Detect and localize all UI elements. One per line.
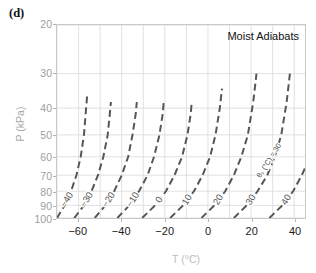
- y-tick-label: 80: [40, 186, 52, 198]
- y-tick-label: 100: [34, 213, 52, 225]
- x-tick-mark: [208, 219, 209, 222]
- y-tick-label: 70: [40, 170, 52, 182]
- y-tick-mark: [53, 108, 56, 109]
- y-tick-mark: [53, 206, 56, 207]
- x-tick-label: 40: [289, 225, 301, 237]
- y-tick-mark: [53, 157, 56, 158]
- figure-panel-d: (d) −40−40−30−30−20−20−10−10001010202030…: [0, 0, 316, 273]
- y-tick-label: 60: [40, 151, 52, 163]
- y-tick-mark: [53, 192, 56, 193]
- y-tick-mark: [53, 219, 56, 220]
- x-tick-mark: [78, 219, 79, 222]
- y-tick-label: 20: [40, 18, 52, 30]
- y-tick-label: 30: [40, 67, 52, 79]
- x-tick-mark: [165, 219, 166, 222]
- y-tick-mark: [53, 135, 56, 136]
- x-tick-label: 20: [246, 225, 258, 237]
- y-tick-mark: [53, 24, 56, 25]
- y-tick-label: 90: [40, 200, 52, 212]
- y-tick-label: 40: [40, 102, 52, 114]
- x-tick-mark: [121, 219, 122, 222]
- y-tick-label: 50: [40, 129, 52, 141]
- axis-tick-labels: 2030405060708090100−60−40−2002040: [0, 0, 316, 273]
- x-tick-label: −40: [112, 225, 131, 237]
- x-tick-mark: [295, 219, 296, 222]
- x-tick-mark: [252, 219, 253, 222]
- x-tick-label: −60: [68, 225, 87, 237]
- y-tick-mark: [53, 73, 56, 74]
- x-tick-label: 0: [205, 225, 211, 237]
- x-tick-label: −20: [155, 225, 174, 237]
- y-axis-label: P (kPa): [14, 107, 26, 142]
- x-axis-label: T (°C): [172, 253, 200, 265]
- y-tick-mark: [53, 176, 56, 177]
